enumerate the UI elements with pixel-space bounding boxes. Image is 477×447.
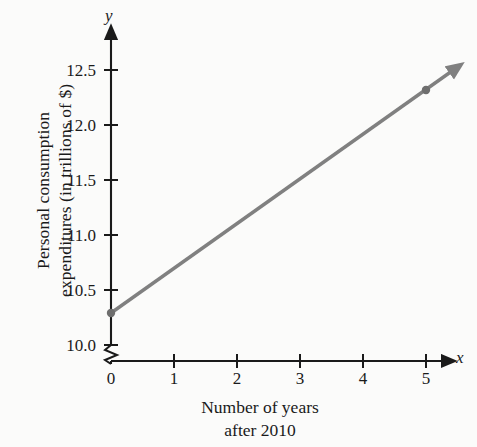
chart-plot-svg	[0, 0, 477, 447]
trend-line	[111, 71, 452, 313]
data-point	[422, 86, 430, 94]
data-point	[107, 309, 115, 317]
chart-figure: Personal consumption expenditures (in tr…	[0, 0, 477, 447]
